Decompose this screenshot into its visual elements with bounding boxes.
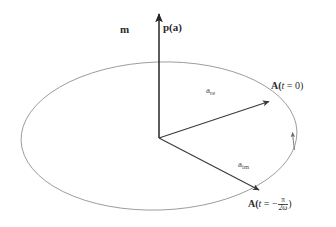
point-label-a-t-quarter: A(t = −π2ω) bbox=[248, 197, 292, 213]
a-tq-fraction: π2ω bbox=[278, 197, 289, 213]
p-axis-label: p(a) bbox=[163, 22, 182, 33]
a-t0-prefix: A( bbox=[271, 80, 282, 91]
point-label-a-t0: A(t = 0) bbox=[271, 81, 303, 91]
a-re-subscript: re bbox=[210, 89, 215, 96]
a-re-label: are bbox=[206, 86, 215, 96]
orbit-direction-arrow bbox=[293, 133, 295, 151]
a-tq-denominator: 2ω bbox=[278, 205, 289, 212]
a-tq-suffix: ) bbox=[288, 198, 291, 209]
a-re-vector bbox=[159, 102, 269, 139]
figure-canvas: m p(a) are aim A(t = 0) A(t = −π2ω) bbox=[0, 0, 336, 227]
a-im-subscript: im bbox=[242, 163, 249, 170]
a-tq-equation: = − bbox=[261, 198, 277, 209]
vector-diagram-svg bbox=[0, 0, 336, 227]
a-im-label: aim bbox=[238, 160, 249, 170]
magnetization-label: m bbox=[120, 24, 129, 35]
a-tq-prefix: A( bbox=[248, 198, 259, 209]
a-t0-equation: = 0) bbox=[284, 80, 303, 91]
